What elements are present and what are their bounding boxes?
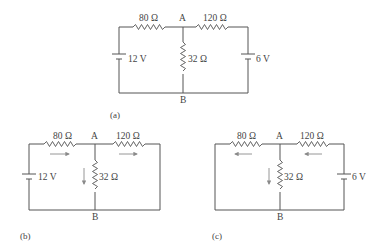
r-right-label: 120 Ω	[116, 131, 140, 141]
resistor-32-icon	[93, 160, 98, 189]
caption-a: (a)	[110, 110, 120, 120]
source-right-label: 6 V	[256, 54, 270, 64]
caption-b: (b)	[20, 231, 31, 241]
circuit-b: 80 Ω A 120 Ω 12 V 32 Ω B (b)	[20, 131, 160, 241]
r-left-label: 80 Ω	[237, 131, 256, 141]
circuit-c: 80 Ω A 120 Ω 32 Ω 6 V B (c)	[212, 131, 366, 241]
resistor-32-icon	[181, 42, 186, 71]
resistor-120-icon	[113, 142, 145, 147]
node-b-label: B	[180, 95, 186, 105]
node-a-label: A	[179, 13, 186, 23]
circuit-diagrams: 80 Ω A 120 Ω 12 V 32 Ω 6 V B (a) 80 Ω A …	[0, 0, 390, 250]
source-left-label: 12 V	[38, 172, 57, 182]
circuit-a: 80 Ω A 120 Ω 12 V 32 Ω 6 V B (a)	[110, 13, 270, 120]
resistor-32-icon	[278, 160, 283, 189]
resistor-80-icon	[133, 25, 165, 30]
source-left-label: 12 V	[128, 54, 147, 64]
resistor-80-icon	[230, 142, 262, 147]
r-right-label: 120 Ω	[203, 13, 227, 23]
caption-c: (c)	[212, 231, 222, 241]
r-left-label: 80 Ω	[139, 13, 158, 23]
resistor-80-icon	[44, 142, 76, 147]
r-mid-label: 32 Ω	[188, 54, 207, 64]
node-a-label: A	[276, 131, 283, 141]
r-left-label: 80 Ω	[53, 131, 72, 141]
r-right-label: 120 Ω	[300, 131, 324, 141]
wire	[228, 27, 248, 54]
r-mid-label: 32 Ω	[284, 172, 303, 182]
node-a-label: A	[91, 131, 98, 141]
r-mid-label: 32 Ω	[99, 172, 118, 182]
source-right-label: 6 V	[352, 172, 366, 182]
node-b-label: B	[92, 212, 98, 222]
node-b-label: B	[277, 212, 283, 222]
resistor-120-icon	[297, 142, 329, 147]
resistor-120-icon	[196, 25, 228, 30]
